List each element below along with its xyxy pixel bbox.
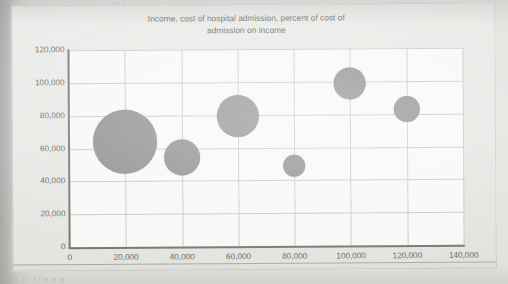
chart-figure: Income, cost of hospital admission, perc…: [11, 3, 497, 272]
x-tick-label-4: 80,000: [265, 252, 325, 261]
y-tick-label-6: 120,000: [12, 45, 64, 54]
chart-title: Income, cost of hospital admission, perc…: [81, 11, 411, 37]
bottom-clipped-text-fragment: m n i i i i n n n: [5, 276, 65, 283]
gridline-horizontal-5: [69, 81, 463, 84]
x-tick-label-6: 120,000: [377, 251, 437, 260]
bubble-point-6: [393, 96, 419, 122]
y-tick-label-4: 80,000: [13, 111, 65, 120]
x-tick-label-0: 0: [40, 253, 100, 262]
gridline-horizontal-2: [69, 179, 463, 182]
y-tick-label-0: 0: [14, 242, 66, 251]
x-tick-label-1: 20,000: [96, 253, 156, 262]
x-tick-label-5: 100,000: [321, 251, 381, 260]
y-tick-label-1: 20,000: [13, 209, 65, 218]
bubble-point-2: [164, 140, 200, 176]
y-tick-label-5: 100,000: [13, 78, 65, 87]
y-tick-label-2: 40,000: [13, 176, 65, 185]
bubble-point-4: [283, 155, 305, 177]
bubble-point-1: [93, 109, 157, 173]
gridline-horizontal-1: [69, 212, 463, 215]
y-tick-label-3: 60,000: [13, 144, 65, 153]
x-tick-label-3: 60,000: [209, 252, 269, 261]
bubble-point-3: [217, 95, 259, 137]
bubble-point-5: [334, 67, 366, 99]
x-tick-label-2: 40,000: [152, 252, 212, 261]
chart-title-line-2: admission on income: [81, 23, 411, 37]
plot-area: [68, 48, 463, 247]
x-tick-label-7: 140,000: [434, 251, 494, 260]
